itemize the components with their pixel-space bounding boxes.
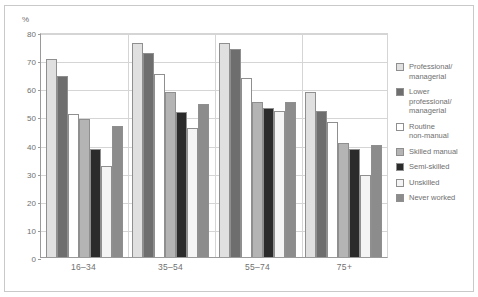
- bar-groups: [41, 34, 387, 257]
- legend-swatch-icon: [396, 179, 404, 187]
- y-axis-tick-label: 70: [27, 58, 36, 67]
- y-axis-tick-label: 30: [27, 170, 36, 179]
- bar: [68, 114, 79, 257]
- legend-swatch-icon: [396, 88, 404, 96]
- bar-group: [305, 34, 382, 257]
- legend-item[interactable]: Unskilled: [396, 178, 476, 188]
- y-axis-tick-label: 10: [27, 226, 36, 235]
- bar: [305, 92, 316, 257]
- bar: [198, 104, 209, 257]
- legend-item[interactable]: Never worked: [396, 193, 476, 203]
- bar: [57, 76, 68, 257]
- bar: [274, 111, 285, 257]
- bar: [132, 43, 143, 257]
- legend-item-label: Unskilled: [409, 178, 439, 188]
- group-separator: [302, 34, 303, 257]
- x-axis-tick-label: 35–54: [127, 262, 214, 272]
- y-axis-tick-label: 60: [27, 86, 36, 95]
- bar: [79, 119, 90, 257]
- legend-item[interactable]: Professional/ managerial: [396, 62, 476, 81]
- bar: [349, 149, 360, 257]
- legend-swatch-icon: [396, 163, 404, 171]
- bar: [165, 92, 176, 257]
- bar: [338, 143, 349, 257]
- legend-item-label: Professional/ managerial: [409, 62, 452, 81]
- x-axis-tick-label: 55–74: [214, 262, 301, 272]
- chart-page: % 01020304050607080 16–3435–5455–7475+ P…: [0, 0, 478, 297]
- bar: [46, 59, 57, 257]
- bar: [187, 128, 198, 257]
- legend-item-label: Skilled manual: [409, 147, 458, 157]
- group-separator: [215, 34, 216, 257]
- bar: [90, 149, 101, 257]
- legend-swatch-icon: [396, 194, 404, 202]
- legend-item-label: Semi-skilled: [409, 162, 449, 172]
- legend-item[interactable]: Routine non-manual: [396, 122, 476, 141]
- bar: [219, 43, 230, 257]
- y-axis-tick-mark: [38, 259, 41, 260]
- y-axis-unit-label: %: [22, 15, 29, 24]
- bar-group: [46, 34, 123, 257]
- legend-swatch-icon: [396, 63, 404, 71]
- bar: [327, 122, 338, 257]
- bar: [176, 112, 187, 257]
- group-separator: [128, 34, 129, 257]
- bar: [241, 78, 252, 257]
- y-axis-tick-label: 20: [27, 198, 36, 207]
- bar: [360, 175, 371, 257]
- bar: [143, 53, 154, 257]
- legend-swatch-icon: [396, 123, 404, 131]
- bar: [112, 126, 123, 257]
- y-axis-tick-label: 50: [27, 114, 36, 123]
- y-axis-tick-label: 0: [32, 255, 36, 264]
- y-axis-tick-label: 40: [27, 142, 36, 151]
- legend-item[interactable]: Lower professional/ managerial: [396, 87, 476, 116]
- x-axis-tick-label: 75+: [301, 262, 388, 272]
- plot-area: 01020304050607080: [40, 33, 388, 258]
- legend-item-label: Routine non-manual: [409, 122, 449, 141]
- bar-group: [132, 34, 209, 257]
- bar: [252, 102, 263, 257]
- legend-item[interactable]: Skilled manual: [396, 147, 476, 157]
- bar: [154, 74, 165, 257]
- x-axis-labels: 16–3435–5455–7475+: [40, 262, 388, 272]
- y-axis-tick-label: 80: [27, 30, 36, 39]
- bar-group: [219, 34, 296, 257]
- bar: [230, 49, 241, 257]
- legend-swatch-icon: [396, 148, 404, 156]
- bar: [263, 108, 274, 257]
- legend-item-label: Never worked: [409, 193, 455, 203]
- legend-item-label: Lower professional/ managerial: [409, 87, 452, 116]
- bar: [316, 111, 327, 257]
- legend-item[interactable]: Semi-skilled: [396, 162, 476, 172]
- bar: [101, 166, 112, 257]
- x-axis-tick-label: 16–34: [40, 262, 127, 272]
- chart-legend: Professional/ managerialLower profession…: [396, 62, 476, 209]
- bar: [371, 145, 382, 258]
- bar: [285, 102, 296, 257]
